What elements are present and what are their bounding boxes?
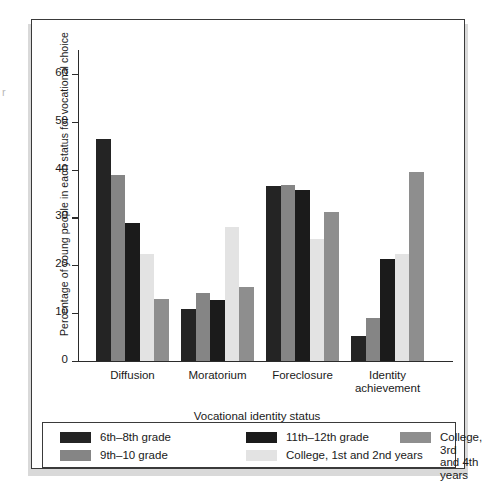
legend-swatch <box>246 432 277 443</box>
figure: r Percentage of young people in each sta… <box>0 0 488 487</box>
x-group-label: Identity achievement <box>333 369 443 395</box>
bar <box>210 300 225 361</box>
bar <box>324 212 339 361</box>
y-tick-label-10: 10 <box>55 305 68 317</box>
y-tick-label-60: 60 <box>55 66 68 78</box>
bar <box>154 299 169 361</box>
legend-label: College, 3rd and 4th years <box>440 431 482 481</box>
bar <box>125 223 140 361</box>
legend-item: College, 3rd and 4th years <box>400 431 482 481</box>
legend-swatch <box>60 432 91 443</box>
legend-label: 11th–12th grade <box>286 431 369 444</box>
bar <box>409 172 424 361</box>
plot-area: 0102030405060 DiffusionMoratoriumForeclo… <box>78 50 436 361</box>
bar <box>295 190 310 361</box>
y-tick-label-20: 20 <box>55 257 68 269</box>
bar <box>196 293 211 361</box>
legend-swatch <box>400 432 431 443</box>
y-tick-label-40: 40 <box>55 162 68 174</box>
bar <box>281 185 296 361</box>
legend: 6th–8th grade9th–10 grade11th–12th grade… <box>48 429 452 463</box>
bar <box>380 259 395 361</box>
legend-item: 9th–10 grade <box>60 449 168 462</box>
bar <box>310 239 325 361</box>
bar <box>266 186 281 361</box>
x-axis-title: Vocational identity status <box>78 410 436 422</box>
bar <box>366 318 381 361</box>
y-axis-title: Percentage of young people in each statu… <box>58 36 70 336</box>
page-edge-artifact: r <box>2 86 6 98</box>
bar <box>140 254 155 361</box>
legend-item: College, 1st and 2nd years <box>246 449 423 462</box>
bar <box>395 254 410 361</box>
legend-swatch <box>60 450 91 461</box>
y-tick-label-50: 50 <box>55 114 68 126</box>
bar <box>111 175 126 361</box>
bars-layer <box>78 50 436 361</box>
legend-label: 9th–10 grade <box>100 449 168 462</box>
bar <box>239 287 254 361</box>
legend-item: 11th–12th grade <box>246 431 369 444</box>
y-tick-0: 0 <box>72 361 78 362</box>
legend-item: 6th–8th grade <box>60 431 171 444</box>
bar <box>96 139 111 361</box>
plot-wrapper: Percentage of young people in each statu… <box>32 20 466 470</box>
bar <box>181 309 196 361</box>
legend-label: 6th–8th grade <box>100 431 171 444</box>
y-tick-label-0: 0 <box>62 353 68 365</box>
bar <box>225 227 240 361</box>
bar <box>351 336 366 361</box>
legend-swatch <box>246 450 277 461</box>
x-axis-line <box>78 361 453 362</box>
y-tick-label-30: 30 <box>55 209 68 221</box>
chart-frame: Percentage of young people in each statu… <box>31 19 465 469</box>
